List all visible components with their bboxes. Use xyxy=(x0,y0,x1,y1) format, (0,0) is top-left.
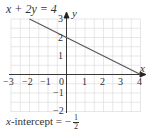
y-axis-label: y xyxy=(72,8,77,19)
x-tick-label: 1 xyxy=(82,77,87,87)
grid xyxy=(11,19,141,112)
x-axis-label: x xyxy=(140,63,145,74)
x-intercept-caption: x-intercept = −12 xyxy=(6,114,79,129)
caption-text: -intercept = − xyxy=(11,115,71,127)
y-tick-label: 1 xyxy=(58,51,63,61)
x-tick-label: 0 xyxy=(59,77,64,87)
y-tick-label: 3 xyxy=(58,14,63,24)
x-tick-label: −3 xyxy=(3,77,14,87)
y-tick-label: 2 xyxy=(58,33,63,43)
x-tick-label: −2 xyxy=(22,77,33,87)
x-tick-label: 2 xyxy=(100,77,105,87)
equation-label: x + 2y = 4 xyxy=(6,3,57,15)
x-tick-label: −1 xyxy=(40,77,51,87)
caption-fraction: 12 xyxy=(73,114,79,129)
y-axis-arrow-icon xyxy=(64,12,69,18)
x-tick-label: 3 xyxy=(118,77,123,87)
chart-canvas xyxy=(0,0,148,129)
y-tick-label: −1 xyxy=(53,88,64,98)
x-tick-label: 4 xyxy=(137,77,142,87)
fraction-denominator: 2 xyxy=(73,123,79,129)
